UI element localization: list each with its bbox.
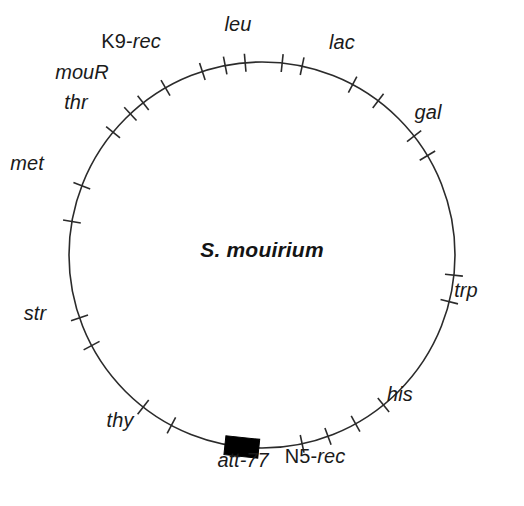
- locus-tick-gal-1: [420, 151, 435, 160]
- locus-label-att-77: att-77: [217, 449, 268, 472]
- locus-tick-his-0: [351, 416, 360, 432]
- organism-name-label: S. mouirium: [200, 238, 324, 262]
- locus-tick-leu-0: [281, 54, 283, 72]
- locus-label-mouR: mouR: [55, 62, 109, 82]
- locus-tick-thy-0: [138, 400, 149, 414]
- locus-label-his: his: [387, 384, 413, 404]
- locus-label-thr: thr: [64, 92, 88, 112]
- locus-label-suffix: rec: [133, 30, 161, 52]
- locus-label-k9-rec: K9-rec: [101, 31, 161, 51]
- locus-label-trp: trp: [454, 280, 478, 300]
- locus-label-met: met: [10, 153, 44, 173]
- locus-label-suffix: rec: [317, 445, 345, 467]
- locus-label-prefix: N5-: [285, 445, 318, 467]
- locus-tick-thr-2: [106, 127, 120, 138]
- locus-tick-str-1: [84, 341, 100, 349]
- locus-label-prefix: K9-: [101, 30, 132, 52]
- locus-tick-trp-1: [445, 274, 463, 276]
- locus-tick-lac-0: [348, 77, 356, 93]
- locus-label-leu: leu: [225, 14, 252, 34]
- locus-label-thy: thy: [107, 410, 134, 430]
- locus-tick-mouR-0: [161, 80, 170, 96]
- locus-tick-thy-1: [167, 417, 175, 433]
- locus-label-n5-rec: N5-rec: [285, 446, 346, 466]
- locus-tick-k9-rec-2: [244, 54, 246, 72]
- locus-tick-gal-0: [407, 131, 421, 142]
- locus-label-gal: gal: [415, 102, 442, 122]
- locus-tick-thr-1: [138, 96, 149, 110]
- locus-label-str: str: [24, 303, 47, 323]
- locus-label-lac: lac: [329, 32, 355, 52]
- locus-tick-lac-1: [373, 94, 384, 108]
- circular-genetic-map: S. mouirium leuK9-recmouRthrmetstrthyN5-…: [0, 0, 524, 506]
